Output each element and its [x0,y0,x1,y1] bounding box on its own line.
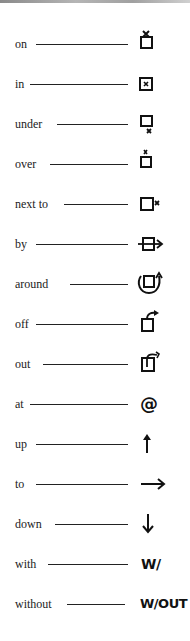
word-label: on [15,37,27,51]
word-label: next to [15,197,48,211]
word-label: down [15,517,42,531]
list-item-to: to [0,473,190,497]
box-with-x-above-icon [136,153,184,177]
connector-line [36,484,128,485]
word-label: under [15,117,42,131]
list-item-at: at @ [0,393,190,417]
connector-line [30,404,128,405]
with-abbreviation: W/ [141,556,161,572]
list-item-over: over [0,153,190,177]
arrow-off-box-icon [136,313,184,337]
top-edge-shadow [0,0,190,3]
word-label: in [15,77,24,91]
connector-line [50,164,128,165]
list-item-around: around [0,273,190,297]
word-label: with [15,557,36,571]
word-label: off [15,317,29,331]
connector-line [30,84,128,85]
connector-line [36,244,128,245]
list-item-on: on [0,33,190,57]
connector-line [70,284,128,285]
circular-arrow-around-box-icon [136,273,184,297]
at-sign-icon: @ [140,393,158,414]
box-with-x-inside-icon [136,73,184,97]
list-item-in: in [0,73,190,97]
word-label: at [15,397,24,411]
connector-line [55,524,128,525]
word-label: by [15,237,27,251]
connector-line [36,324,128,325]
down-arrow-icon [136,513,184,537]
right-arrow-icon [136,473,184,497]
list-item-out: out [0,353,190,377]
word-label: out [15,357,30,371]
list-item-under: under [0,113,190,137]
box-with-x-below-icon [136,113,184,137]
word-label: over [15,157,36,171]
arrow-passing-box-icon [136,233,184,257]
without-abbreviation: W/OUT [140,596,187,611]
word-label: without [15,597,52,611]
word-label: to [15,477,24,491]
connector-line [36,44,128,45]
list-item-without: without W/OUT [0,593,190,617]
connector-line [48,564,128,565]
box-with-x-on-top-icon [136,33,184,57]
list-item-down: down [0,513,190,537]
list-item-next-to: next to [0,193,190,217]
connector-line [36,444,128,445]
arrow-out-of-box-icon [136,353,184,377]
word-label: around [15,277,48,291]
connector-line [64,204,128,205]
up-arrow-icon [136,433,184,457]
list-item-off: off [0,313,190,337]
connector-line [67,604,125,605]
box-with-x-beside-icon [136,193,184,217]
list-item-up: up [0,433,190,457]
word-label: up [15,437,27,451]
list-item-with: with W/ [0,553,190,577]
connector-line [57,124,128,125]
connector-line [43,364,128,365]
list-item-by: by [0,233,190,257]
